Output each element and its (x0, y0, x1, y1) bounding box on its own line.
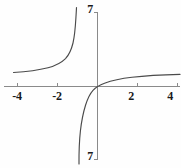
x-axis-label-pos4: 4 (167, 90, 173, 102)
y-axis-label-neg7: 7 (87, 150, 93, 162)
x-axis-label-neg4: -4 (12, 90, 21, 102)
function-graph-figure: -4 -2 2 4 7 7 (0, 0, 181, 168)
curve-left-branch (14, 8, 77, 73)
x-axis-label-neg2: -2 (52, 90, 61, 102)
plot-canvas (0, 0, 181, 168)
y-axis-label-pos7: 7 (87, 3, 93, 15)
curve-right-branch (79, 74, 180, 164)
x-axis-label-pos2: 2 (128, 90, 134, 102)
